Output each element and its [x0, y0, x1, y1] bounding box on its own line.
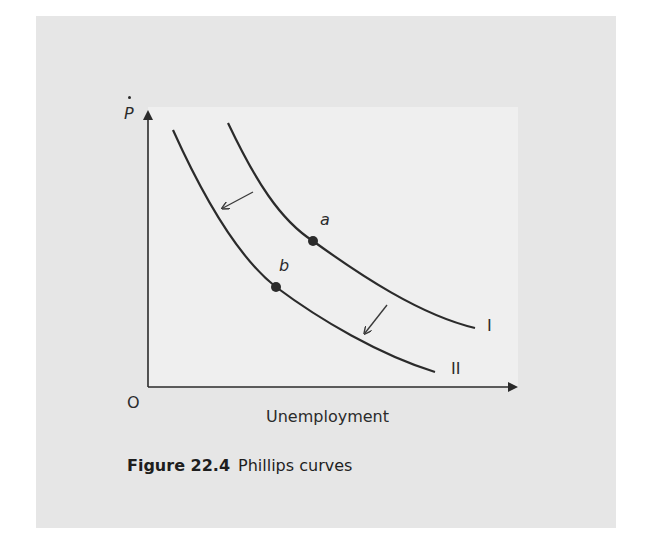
figure-title: Phillips curves	[238, 456, 352, 475]
curve-I-label: I	[487, 316, 492, 335]
curve-II-label: II	[451, 359, 460, 378]
x-axis-label: Unemployment	[266, 407, 389, 426]
shift-arrow-lower	[365, 305, 387, 333]
curve-II-line	[173, 130, 435, 372]
curve-I-line	[228, 123, 475, 328]
y-axis-label: P	[124, 104, 134, 123]
figure-caption: Figure 22.4Phillips curves	[127, 456, 352, 475]
origin-label: O	[127, 393, 140, 412]
point-b-marker	[271, 282, 281, 292]
shift-arrow-upper	[223, 192, 253, 208]
point-a-marker	[308, 236, 318, 246]
figure-number: Figure 22.4	[127, 456, 230, 475]
y-axis-label-dot	[128, 96, 131, 99]
point-a-label: a	[320, 210, 330, 229]
point-b-label: b	[279, 256, 289, 275]
